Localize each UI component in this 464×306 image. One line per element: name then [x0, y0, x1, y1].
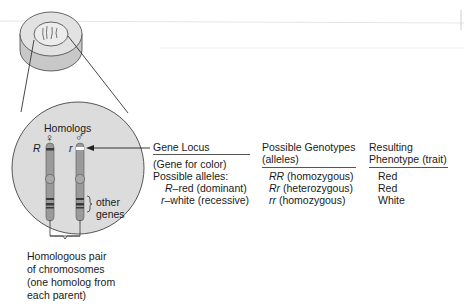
genotype-row: rr (homozygous) [269, 194, 345, 207]
col2-rule [262, 167, 356, 168]
allele-row: r–white (recessive) [161, 194, 249, 207]
pair-caption: Homologous pair of chromosomes (one homo… [27, 250, 115, 302]
genotypes-header-2: (alleles) [262, 153, 299, 166]
pair-bracket-icon [50, 236, 80, 239]
male-symbol-icon: ♂ [75, 131, 84, 144]
other-genes-label-2: genes [96, 208, 125, 221]
col3-rule [369, 167, 448, 168]
phenotype-header-2: Phenotype (trait) [369, 153, 447, 166]
gene-locus-header: Gene Locus [153, 141, 210, 154]
phenotype-row: White [378, 194, 405, 207]
col1-rule [153, 154, 250, 155]
chromosome-maternal [45, 143, 54, 221]
female-symbol-icon: ♀ [45, 132, 54, 145]
allele-R-label: R [33, 142, 41, 155]
allele-r-label: r [69, 142, 73, 155]
chromosome-paternal [75, 143, 84, 221]
